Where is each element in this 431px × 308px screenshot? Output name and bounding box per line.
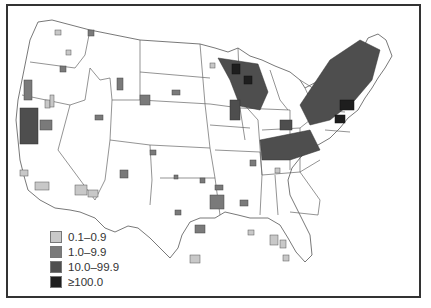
legend-swatch-dark [50,261,62,273]
legend-label: 1.0–9.9 [68,246,106,258]
legend-item: ≥100.0 [50,274,119,289]
map-legend: 0.1–0.9 1.0–9.9 10.0–99.9 ≥100.0 [50,229,119,289]
legend-item: 1.0–9.9 [50,244,119,259]
legend-label: 10.0–99.9 [68,261,119,273]
legend-item: 0.1–0.9 [50,229,119,244]
legend-label: 0.1–0.9 [68,231,106,243]
legend-swatch-light [50,231,62,243]
legend-label: ≥100.0 [68,276,103,288]
legend-swatch-medium [50,246,62,258]
legend-swatch-darkest [50,276,62,288]
legend-item: 10.0–99.9 [50,259,119,274]
